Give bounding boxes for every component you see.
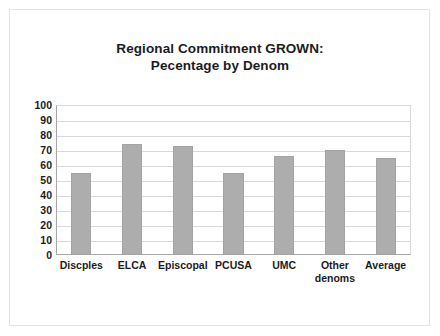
y-axis-tick-label: 40 bbox=[22, 190, 52, 200]
y-axis-tick-label: 0 bbox=[22, 250, 52, 260]
chart-title: Regional Commitment GROWN: Pecentage by … bbox=[0, 40, 440, 74]
y-axis-tick-label: 10 bbox=[22, 235, 52, 245]
x-axis-tick-label: Average bbox=[360, 259, 411, 272]
bar bbox=[223, 173, 243, 256]
x-axis-tick-label: Episcopal bbox=[157, 259, 208, 272]
y-axis-tick-label: 30 bbox=[22, 205, 52, 215]
y-axis-tick-label: 100 bbox=[22, 100, 52, 110]
y-axis-labels: 1009080706050403020100 bbox=[20, 105, 52, 255]
y-axis-tick-label: 60 bbox=[22, 160, 52, 170]
slide-canvas: Regional Commitment GROWN: Pecentage by … bbox=[0, 0, 440, 336]
chart-title-line2: Pecentage by Denom bbox=[0, 57, 440, 74]
y-axis-tick-label: 70 bbox=[22, 145, 52, 155]
x-axis-tick-label: Other denoms bbox=[310, 259, 361, 285]
bar bbox=[274, 156, 294, 255]
x-axis-labels: DiscplesELCAEpiscopalPCUSAUMCOther denom… bbox=[56, 259, 411, 299]
bar bbox=[173, 146, 193, 256]
y-axis-tick-label: 90 bbox=[22, 115, 52, 125]
y-axis-tick-label: 50 bbox=[22, 175, 52, 185]
x-axis-tick-label: UMC bbox=[259, 259, 310, 272]
y-axis-tick-label: 80 bbox=[22, 130, 52, 140]
bar bbox=[376, 158, 396, 256]
y-axis-tick-label: 20 bbox=[22, 220, 52, 230]
x-axis-tick-label: ELCA bbox=[107, 259, 158, 272]
x-axis-tick-label: PCUSA bbox=[208, 259, 259, 272]
chart-title-line1: Regional Commitment GROWN: bbox=[116, 41, 323, 56]
x-axis-tick-label: Discples bbox=[56, 259, 107, 272]
bar bbox=[71, 173, 91, 256]
bars-layer bbox=[56, 105, 411, 255]
bar bbox=[325, 150, 345, 255]
bar bbox=[122, 144, 142, 255]
